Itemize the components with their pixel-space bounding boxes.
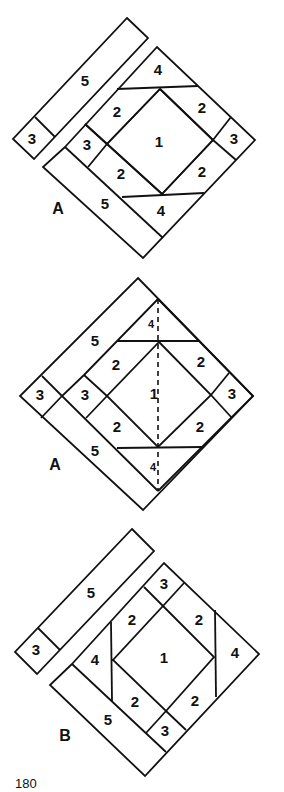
label-center1: 1 (155, 133, 163, 150)
label-top3: 3 (160, 575, 168, 592)
figure-caption-a1: A (52, 200, 64, 217)
label-right3: 3 (228, 385, 236, 402)
label-top-left2: 2 (128, 611, 136, 628)
label-top-left2: 2 (112, 356, 120, 373)
label-right3: 3 (230, 130, 238, 147)
label-left3: 3 (81, 386, 89, 403)
label-bottom-left2: 2 (113, 418, 121, 435)
label-left3: 3 (83, 136, 91, 153)
main-block (43, 47, 255, 258)
figure-caption-a2: A (49, 456, 61, 473)
label-bottom-left2: 2 (131, 693, 139, 710)
label-right4: 4 (231, 644, 240, 661)
label-bottom-left2: 2 (117, 165, 125, 182)
label-top4: 4 (154, 61, 163, 78)
label-bottom5: 5 (91, 442, 99, 459)
label-strip5: 5 (81, 72, 89, 89)
figure-a-exploded: 5 3 4 2 2 3 1 3 2 2 5 4 A (13, 18, 255, 258)
label-bottom5: 5 (101, 195, 109, 212)
figure-caption-b: B (59, 727, 71, 744)
label-top5: 5 (91, 332, 99, 349)
label-bottom5: 5 (104, 711, 112, 728)
page-number: 180 (15, 776, 37, 791)
label-top-left2: 2 (113, 103, 121, 120)
label-strip3: 3 (28, 130, 36, 147)
label-top-right2: 2 (195, 611, 203, 628)
label-bottom-right2: 2 (198, 163, 206, 180)
label-top-right2: 2 (197, 353, 205, 370)
label-bottom-right2: 2 (196, 418, 204, 435)
label-bottom4: 4 (157, 202, 166, 219)
label-top4: 4 (148, 318, 155, 330)
label-bottom-right2: 2 (191, 692, 199, 709)
quilt-diagram-page: 5 3 4 2 2 3 1 3 2 2 5 4 A (0, 0, 284, 792)
label-left4: 4 (91, 651, 100, 668)
figure-b-exploded: 5 3 3 2 2 4 1 4 2 2 5 3 B (15, 529, 259, 776)
label-outer3: 3 (36, 386, 44, 403)
label-bottom3: 3 (161, 722, 169, 739)
label-strip5: 5 (87, 584, 95, 601)
label-strip3: 3 (32, 641, 40, 658)
label-center1: 1 (150, 385, 158, 402)
label-center1: 1 (160, 649, 168, 666)
label-top-right2: 2 (198, 99, 206, 116)
label-bottom4: 4 (150, 461, 157, 473)
figure-a-assembled: 5 3 3 4 2 2 1 3 2 2 5 4 A (20, 278, 253, 510)
